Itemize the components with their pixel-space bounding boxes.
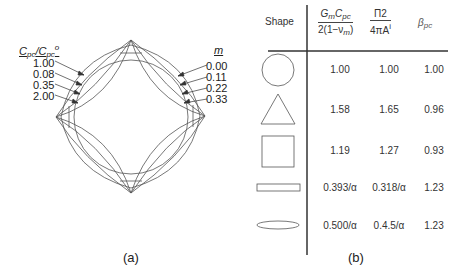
shape-circle-icon (262, 54, 294, 86)
shape-ellipse-icon (257, 221, 299, 229)
header-stiffness-ratio: GmCpc 2(1−νm) (318, 8, 353, 37)
header-area-ratio: Π2 4πAi (370, 8, 391, 36)
shape-square-icon (262, 136, 294, 167)
header-beta: βpc (418, 17, 432, 30)
right-legend-value-4: 0.33 (206, 93, 227, 105)
right-legend-title: m (214, 44, 223, 56)
circle-shape (74, 60, 188, 174)
astroid-curve-2 (56, 40, 205, 193)
caption-a: (a) (123, 250, 139, 265)
left-legend-value-4: 2.00 (33, 90, 54, 102)
astroid-curve-1 (56, 40, 205, 193)
shape-rectangle-icon (257, 184, 300, 191)
header-shape: Shape (265, 16, 294, 27)
cell-value: 1.23 (404, 220, 464, 231)
cell-value: 0.93 (404, 145, 464, 156)
cell-value: 0.96 (404, 104, 464, 115)
caption-b: (b) (348, 250, 364, 265)
cell-value: 1.23 (404, 182, 464, 193)
cell-value: 1.00 (404, 64, 464, 75)
astroid-curve-4 (61, 45, 200, 188)
shape-triangle-icon (261, 94, 295, 124)
inclusion-shape-figure (0, 0, 468, 276)
astroid-curve-3 (56, 40, 205, 193)
